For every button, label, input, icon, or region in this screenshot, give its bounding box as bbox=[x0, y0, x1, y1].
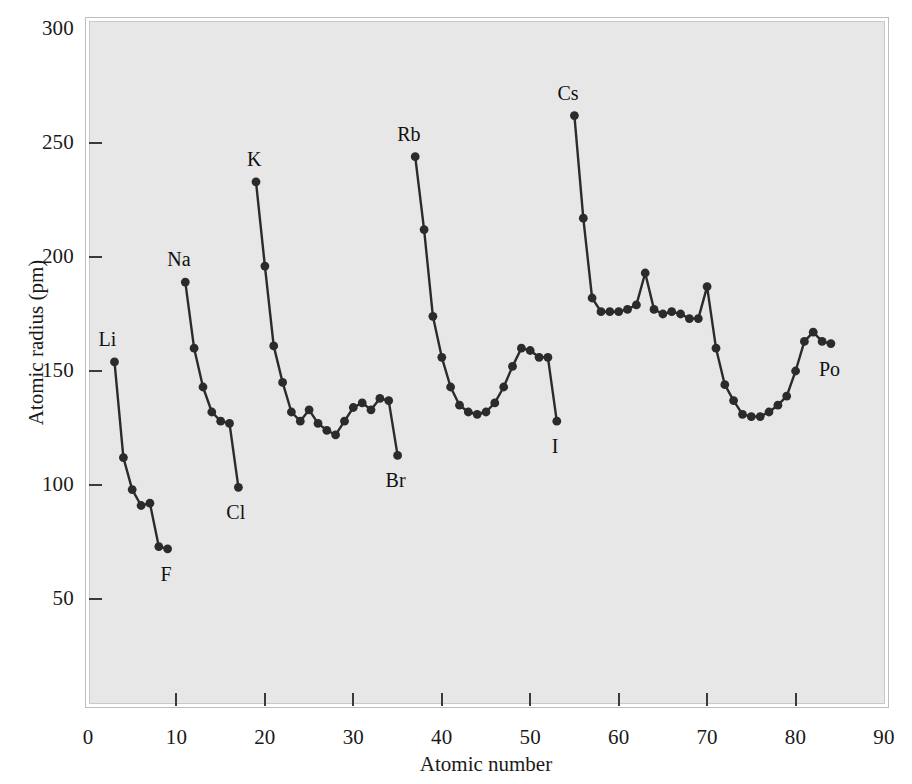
point-label: Br bbox=[386, 470, 406, 490]
x-tick-mark bbox=[264, 693, 266, 706]
point-label: Po bbox=[819, 359, 840, 379]
x-tick-label: 0 bbox=[58, 725, 118, 750]
x-tick-mark bbox=[175, 693, 177, 706]
point-label: F bbox=[161, 564, 172, 584]
point-label: Cs bbox=[557, 83, 578, 103]
point-label: I bbox=[552, 436, 559, 456]
x-tick-mark bbox=[706, 693, 708, 706]
x-tick-label: 40 bbox=[412, 725, 472, 750]
y-tick-label: 250 bbox=[20, 130, 74, 155]
atomic-radius-chart: 50100150200250300 0102030405060708090 Li… bbox=[0, 0, 912, 784]
x-tick-label: 20 bbox=[235, 725, 295, 750]
x-tick-label: 80 bbox=[766, 725, 826, 750]
point-label: Rb bbox=[397, 124, 420, 144]
plot-area bbox=[86, 18, 888, 707]
x-tick-mark bbox=[441, 693, 443, 706]
x-tick-mark bbox=[529, 693, 531, 706]
x-tick-label: 60 bbox=[589, 725, 649, 750]
x-tick-mark bbox=[618, 693, 620, 706]
y-axis-title: Atomic radius (pm) bbox=[24, 203, 49, 483]
point-label: Cl bbox=[226, 502, 245, 522]
x-tick-mark bbox=[795, 693, 797, 706]
y-tick-mark bbox=[89, 256, 102, 258]
x-axis-title: Atomic number bbox=[306, 752, 666, 777]
point-label: Na bbox=[167, 249, 190, 269]
x-tick-label: 10 bbox=[146, 725, 206, 750]
y-tick-mark bbox=[89, 142, 102, 144]
y-tick-mark bbox=[89, 484, 102, 486]
y-tick-mark bbox=[89, 598, 102, 600]
x-tick-label: 70 bbox=[677, 725, 737, 750]
y-tick-label: 50 bbox=[20, 586, 74, 611]
x-tick-label: 30 bbox=[323, 725, 383, 750]
plot-inner-background bbox=[89, 21, 885, 704]
y-tick-mark bbox=[89, 370, 102, 372]
point-label: K bbox=[247, 149, 261, 169]
x-tick-mark bbox=[352, 693, 354, 706]
x-tick-label: 90 bbox=[854, 725, 912, 750]
point-label: Li bbox=[99, 329, 117, 349]
x-tick-label: 50 bbox=[500, 725, 560, 750]
y-tick-label: 300 bbox=[20, 16, 74, 41]
